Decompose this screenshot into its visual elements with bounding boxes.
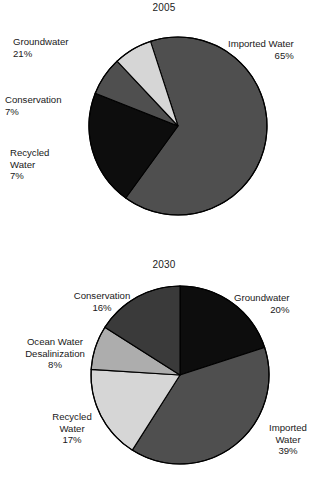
pie-chart-2005: 2005 Imported Water65%Groundwater21%Cons… <box>0 0 328 245</box>
pie-label-percent: 8% <box>2 359 108 371</box>
pie-label-text: Ocean Water Desalinization <box>25 336 85 359</box>
pie-label-text: Imported Water <box>228 38 294 49</box>
pie-label-text: Groundwater <box>234 292 289 303</box>
pie-label-text: Imported Water <box>269 422 307 445</box>
pie-label-text: Conservation <box>74 290 131 301</box>
pie-label-imported-water: Imported Water65% <box>228 38 294 61</box>
pie-label-text: Recycled Water <box>10 147 49 170</box>
pie-label-conservation: Conservation16% <box>50 290 154 313</box>
pie-label-percent: 65% <box>228 50 294 62</box>
pie-label-groundwater: Groundwater21% <box>13 36 138 59</box>
pie-label-percent: 7% <box>10 170 82 182</box>
pie-label-conservation: Conservation7% <box>5 94 88 117</box>
pie-label-recycled-water: Recycled Water7% <box>10 147 82 182</box>
pie-label-percent: 20% <box>234 304 289 316</box>
pie-label-percent: 17% <box>32 434 112 446</box>
pie-label-imported-water: Imported Water39% <box>252 422 324 457</box>
pie-label-ocean-water-desalinization: Ocean Water Desalinization8% <box>2 336 108 371</box>
figure-page: 2005 Imported Water65%Groundwater21%Cons… <box>0 0 328 490</box>
pie-label-percent: 16% <box>50 302 154 314</box>
pie-label-groundwater: Groundwater20% <box>234 292 289 315</box>
pie-label-text: Groundwater <box>13 36 68 47</box>
pie-label-percent: 7% <box>5 106 88 118</box>
pie-chart-2030: 2030 Groundwater20%Conservation16%Ocean … <box>0 245 328 490</box>
pie-label-percent: 39% <box>252 445 324 457</box>
pie-label-text: Recycled Water <box>52 411 91 434</box>
pie-label-text: Conservation <box>5 94 62 105</box>
pie-label-recycled-water: Recycled Water17% <box>32 411 112 446</box>
pie-label-percent: 21% <box>13 48 138 60</box>
